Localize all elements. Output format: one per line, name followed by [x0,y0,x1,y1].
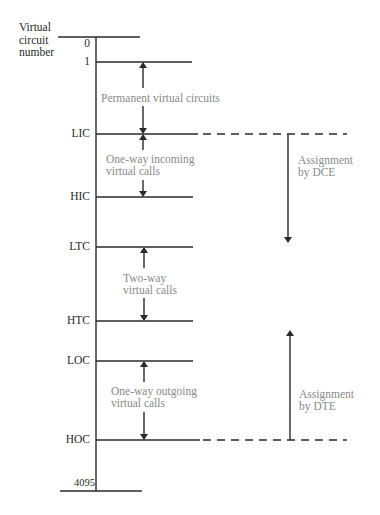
range-label-twoway: Two-way virtual calls [123,272,177,296]
level-label-loc: LOC [30,354,90,366]
level-label-0: 0 [30,37,90,49]
level-label-hic: HIC [30,190,90,202]
range-label-permanent: Permanent virtual circuits [101,92,220,104]
level-label-4095: 4095 [35,477,95,489]
assignment-label-dte: Assignment by DTE [299,388,354,412]
level-label-1: 1 [30,55,90,67]
level-label-ltc: LTC [30,240,90,252]
level-label-lic: LIC [30,127,90,139]
level-label-htc: HTC [30,314,90,326]
range-label-incoming: One-way incoming virtual calls [106,153,194,177]
range-label-outgoing: One-way outgoing virtual calls [111,385,197,409]
assignment-label-dce: Assignment by DCE [298,154,353,178]
level-label-hoc: HOC [30,433,90,445]
